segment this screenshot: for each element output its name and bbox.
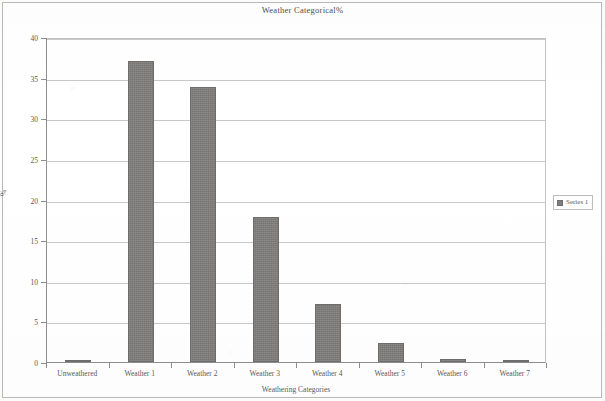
x-axis-tick	[171, 363, 172, 368]
gridline	[47, 120, 545, 121]
y-axis-tick-label: 15	[14, 237, 38, 246]
bar-weather-5[interactable]	[378, 343, 404, 362]
y-axis-tick	[41, 282, 46, 283]
bar-weather-2[interactable]	[190, 87, 216, 362]
x-axis-tick	[546, 363, 547, 368]
y-axis-tick-label: 40	[14, 34, 38, 43]
y-axis-tick	[41, 160, 46, 161]
x-axis-tick	[46, 363, 47, 368]
bar-unweathered[interactable]	[65, 360, 91, 362]
x-axis-label-weather-2: Weather 2	[187, 369, 217, 378]
x-axis-label-weather-1: Weather 1	[125, 369, 155, 378]
y-axis-tick-label: 0	[14, 359, 38, 368]
gridline	[47, 242, 545, 243]
bar-weather-7[interactable]	[503, 360, 529, 362]
y-axis-tick-label: 35	[14, 74, 38, 83]
y-axis-tick-label: 30	[14, 115, 38, 124]
x-axis-tick	[359, 363, 360, 368]
bar-weather-4[interactable]	[315, 304, 341, 363]
chart-title: Weather Categorical%	[0, 5, 605, 15]
x-axis-label-weather-7: Weather 7	[500, 369, 530, 378]
legend-label-series-1: Series 1	[566, 199, 588, 206]
chart-screenshot: Weather Categorical% % Weathering Catego…	[0, 0, 605, 401]
y-axis-tick-label: 20	[14, 196, 38, 205]
y-axis-tick-label: 5	[14, 318, 38, 327]
x-axis-label-weather-5: Weather 5	[375, 369, 405, 378]
y-axis-tick	[41, 241, 46, 242]
y-axis-tick	[41, 38, 46, 39]
x-axis-tick	[484, 363, 485, 368]
chart-legend[interactable]: Series 1	[553, 195, 593, 210]
y-axis-tick	[41, 201, 46, 202]
y-axis-tick	[41, 322, 46, 323]
gridline	[47, 39, 545, 40]
x-axis-label-weather-3: Weather 3	[250, 369, 280, 378]
y-axis-title: %	[0, 190, 8, 196]
y-axis-tick	[41, 79, 46, 80]
x-axis-tick	[109, 363, 110, 368]
x-axis-label-weather-4: Weather 4	[312, 369, 342, 378]
x-axis-tick	[234, 363, 235, 368]
x-axis-tick	[421, 363, 422, 368]
legend-swatch-series-1	[557, 200, 563, 206]
y-axis-line	[46, 38, 47, 364]
bar-weather-3[interactable]	[253, 217, 279, 362]
x-axis-label-weather-6: Weather 6	[437, 369, 467, 378]
gridline	[47, 80, 545, 81]
gridline	[47, 323, 545, 324]
gridline	[47, 202, 545, 203]
y-axis-tick-label: 25	[14, 155, 38, 164]
bar-weather-6[interactable]	[440, 359, 466, 362]
bar-weather-1[interactable]	[128, 61, 154, 362]
gridline	[47, 161, 545, 162]
x-axis-tick	[296, 363, 297, 368]
y-axis-tick	[41, 119, 46, 120]
y-axis-tick-label: 10	[14, 277, 38, 286]
gridline	[47, 283, 545, 284]
x-axis-title: Weathering Categories	[46, 385, 546, 394]
plot-area	[46, 38, 546, 363]
x-axis-label-unweathered: Unweathered	[57, 369, 97, 378]
